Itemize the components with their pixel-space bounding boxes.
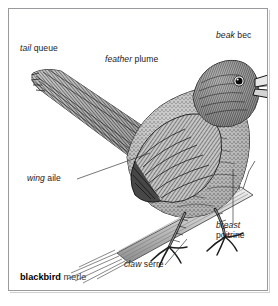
- label-breast-en: breast: [216, 220, 240, 230]
- label-wing-fr: aile: [47, 173, 61, 183]
- label-beak: beak bec: [216, 30, 251, 41]
- label-claw-en: claw: [124, 259, 141, 269]
- eye: [234, 76, 244, 86]
- label-claw: claw serre: [124, 259, 164, 270]
- head: [193, 60, 267, 126]
- caption-term: blackbird: [20, 272, 61, 282]
- label-breast: breast poitrine: [216, 220, 272, 240]
- label-tail-en: tail: [20, 43, 31, 53]
- label-claw-fr: serre: [144, 259, 164, 269]
- label-beak-en: beak: [216, 30, 235, 40]
- leader-claw: [165, 239, 187, 265]
- label-feather-fr: plume: [135, 54, 159, 64]
- label-feather: feather plume: [105, 54, 158, 65]
- label-feather-en: feather: [105, 54, 132, 64]
- label-wing-en: wing: [27, 173, 45, 183]
- label-wing: wing aile: [27, 173, 61, 184]
- illustration-plate: tail queue feather plume beak bec wing a…: [0, 0, 278, 306]
- caption-gloss: merle: [63, 272, 86, 282]
- label-tail: tail queue: [20, 43, 58, 54]
- label-beak-fr: bec: [237, 30, 251, 40]
- label-tail-fr: queue: [34, 43, 58, 53]
- label-breast-fr: poitrine: [216, 230, 245, 240]
- plate-caption: blackbird merle: [20, 272, 86, 282]
